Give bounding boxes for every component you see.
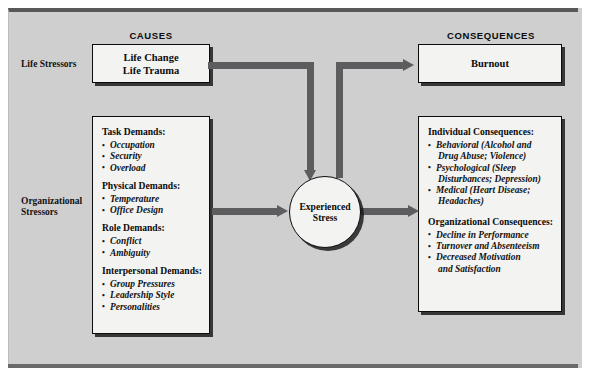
list-item: Security [102,151,201,162]
group-role-demands: Role Demands: Conflict Ambiguity [102,222,201,259]
list-item: Leadership Style [102,290,201,301]
connector-org-stressors-to-stress [212,208,278,215]
list-item: Temperature [102,194,201,205]
group-title: Interpersonal Demands: [102,265,201,277]
group-items: Temperature Office Design [102,194,201,217]
list-item: Behavioral (Alcohol and Drug Abuse; Viol… [428,140,553,163]
connector-burnout-vertical [336,62,343,178]
connector-burnout-horizontal [336,62,404,69]
group-items: Conflict Ambiguity [102,236,201,259]
group-items: Decline in Performance Turnover and Abse… [428,230,553,275]
burnout-label: Burnout [471,57,509,70]
list-item-line1: Medical (Heart Disease; [436,185,530,195]
list-item: Turnover and Absenteeism [428,241,553,252]
list-item-line1: Behavioral (Alcohol and [436,140,531,150]
arrowhead-into-consequences [408,205,419,217]
consequences-box[interactable]: Individual Consequences: Behavioral (Alc… [418,116,562,312]
header-consequences: CONSEQUENCES [418,30,564,41]
list-item: Decreased Motivation and Satisfaction [428,252,553,275]
group-title: Role Demands: [102,222,201,234]
list-item: Overload [102,163,201,174]
group-title: Organizational Consequences: [428,216,553,228]
list-item-line1: Decline in Performance [436,230,529,240]
group-items: Group Pressures Leadership Style Persona… [102,279,201,313]
list-item: Psychological (Sleep Disturbances; Depre… [428,163,553,186]
experienced-stress-node[interactable]: Experienced Stress [289,176,361,248]
list-item-line2: Headaches) [436,196,553,207]
list-item-line2: Disturbances; Depression) [436,174,553,185]
list-item-line1: Psychological (Sleep [436,163,516,173]
list-item: Ambiguity [102,248,201,259]
row-label-life-stressors: Life Stressors [21,59,77,70]
frame-bottom-border [8,364,582,368]
list-item-line1: Turnover and Absenteeism [436,241,539,251]
list-item-line1: Decreased Motivation [436,252,521,262]
list-item: Personalities [102,302,201,313]
experienced-stress-line2: Stress [313,212,337,224]
row-label-organizational-stressors-line2: Stressors [21,207,82,218]
connector-life-stressors-horizontal [208,62,314,69]
list-item: Office Design [102,205,201,216]
organizational-stressors-box[interactable]: Task Demands: Occupation Security Overlo… [92,116,210,334]
group-interpersonal-demands: Interpersonal Demands: Group Pressures L… [102,265,201,313]
group-items: Behavioral (Alcohol and Drug Abuse; Viol… [428,140,553,208]
group-organizational-consequences: Organizational Consequences: Decline in … [428,216,553,275]
group-task-demands: Task Demands: Occupation Security Overlo… [102,126,201,174]
group-physical-demands: Physical Demands: Temperature Office Des… [102,180,201,217]
list-item: Medical (Heart Disease; Headaches) [428,185,553,208]
list-item: Group Pressures [102,279,201,290]
diagram-page: CAUSES CONSEQUENCES Life Stressors Organ… [0,0,595,381]
arrowhead-into-stress-from-org [277,205,288,217]
row-label-organizational-stressors-line1: Organizational [21,196,82,207]
header-causes: CAUSES [92,30,210,41]
list-item-line2: Drug Abuse; Violence) [436,151,553,162]
burnout-box[interactable]: Burnout [418,44,562,83]
list-item-line2: and Satisfaction [436,264,553,275]
row-label-organizational-stressors: Organizational Stressors [21,196,82,218]
experienced-stress-line1: Experienced [299,201,350,213]
group-individual-consequences: Individual Consequences: Behavioral (Alc… [428,126,553,208]
life-stressors-box[interactable]: Life Change Life Trauma [92,44,210,83]
frame-right-edge [578,8,582,368]
arrowhead-into-burnout [403,59,414,71]
group-items: Occupation Security Overload [102,140,201,174]
list-item: Occupation [102,140,201,151]
connector-stress-to-consequences [358,208,410,215]
group-title: Physical Demands: [102,180,201,192]
life-stressors-line2: Life Trauma [123,64,179,77]
connector-life-stressors-vertical [307,62,314,172]
list-item: Decline in Performance [428,230,553,241]
group-title: Individual Consequences: [428,126,553,138]
group-title: Task Demands: [102,126,201,138]
life-stressors-line1: Life Change [123,51,178,64]
list-item: Conflict [102,236,201,247]
